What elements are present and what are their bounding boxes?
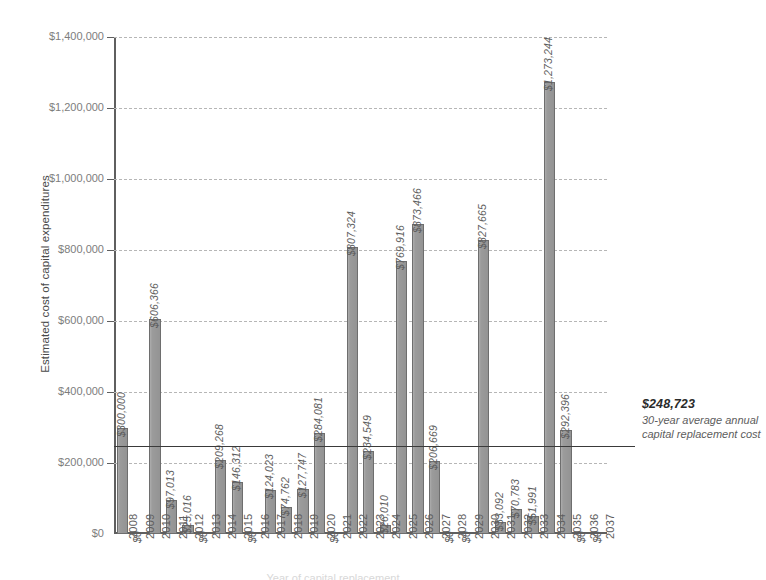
y-axis-tick-label: $1,000,000 (9, 172, 104, 184)
bar[interactable] (412, 224, 423, 534)
gridline (114, 250, 607, 251)
bar[interactable] (396, 261, 407, 534)
bar-value-label: $97,013 (164, 470, 176, 509)
y-axis-tick-mark (107, 179, 114, 180)
bar-value-label: $769,916 (394, 225, 406, 270)
gridline (114, 321, 607, 322)
bar[interactable] (347, 247, 358, 534)
y-axis-tick-label: $1,400,000 (9, 30, 104, 42)
x-axis-tick-label: 2016 (259, 514, 271, 539)
bar-value-label: $127,747 (296, 453, 308, 498)
x-axis-tick-label: 2015 (242, 514, 254, 539)
y-axis-tick-mark (107, 463, 114, 464)
x-axis-tick-label: 2028 (456, 514, 468, 539)
gridline (114, 108, 607, 109)
x-axis-tick-label: 2029 (473, 514, 485, 539)
y-axis-tick-mark (107, 392, 114, 393)
x-axis-tick-label: 2010 (160, 514, 172, 539)
x-axis-tick-label: 2017 (275, 514, 287, 539)
x-axis-tick-label: 2036 (588, 514, 600, 539)
y-axis-tick-label: $800,000 (9, 243, 104, 255)
y-axis-title: Estimated cost of capital expenditures (39, 24, 51, 524)
gridline (114, 463, 607, 464)
y-axis-tick-label: $200,000 (9, 456, 104, 468)
x-axis-tick-label: 2031 (505, 514, 517, 539)
x-axis-tick-label: 2032 (522, 514, 534, 539)
bar-value-label: $606,366 (148, 283, 160, 328)
bar-value-label: $234,549 (361, 415, 373, 460)
x-axis-tick-label: 2018 (292, 514, 304, 539)
x-axis-tick-label: 2025 (407, 514, 419, 539)
x-axis-tick-label: 2021 (341, 514, 353, 539)
x-axis-tick-label: 2020 (325, 514, 337, 539)
chart-plot-area: $0$200,000$400,000$600,000$800,000$1,000… (114, 37, 607, 534)
y-axis-tick-mark (107, 250, 114, 251)
bar[interactable] (478, 240, 489, 534)
gridline (114, 37, 607, 38)
x-axis-tick-label: 2027 (440, 514, 452, 539)
average-annotation: $248,723 30-year average annual capital … (642, 396, 766, 441)
average-description-label: 30-year average annual capital replaceme… (642, 413, 766, 441)
y-axis-tick-label: $400,000 (9, 385, 104, 397)
bar-value-label: $873,466 (411, 188, 423, 233)
x-axis-tick-label: 2037 (604, 514, 616, 539)
bar[interactable] (149, 319, 160, 534)
x-axis-tick-label: 2023 (374, 514, 386, 539)
x-axis-tick-label: 2012 (193, 514, 205, 539)
gridline (114, 392, 607, 393)
x-axis-tick-label: 2019 (308, 514, 320, 539)
bar[interactable] (544, 82, 555, 534)
x-axis-tick-label: 2030 (489, 514, 501, 539)
y-axis-tick-mark (107, 37, 114, 38)
x-axis-tick-label: 2024 (390, 514, 402, 539)
bar-value-label: $1,273,244 (542, 37, 554, 91)
bar-value-label: $827,665 (476, 204, 488, 249)
average-value-label: $248,723 (642, 396, 766, 412)
y-axis-tick-mark (107, 108, 114, 109)
y-axis-line (114, 37, 116, 534)
y-axis-tick-label: $600,000 (9, 314, 104, 326)
x-axis-tick-label: 2011 (177, 515, 189, 539)
bar-value-label: $284,081 (312, 397, 324, 442)
bar-value-label: $74,762 (279, 477, 291, 516)
x-axis-tick-label: 2022 (357, 514, 369, 539)
x-axis-tick-label: 2026 (423, 514, 435, 539)
x-axis-tick-label: 2034 (555, 514, 567, 539)
bar-value-label: $292,396 (559, 394, 571, 439)
x-axis-tick-label: 2033 (538, 514, 550, 539)
bar-value-label: $300,000 (115, 392, 127, 437)
average-reference-line (114, 446, 635, 447)
y-axis-tick-label: $1,200,000 (9, 101, 104, 113)
bar-value-label: $807,324 (345, 211, 357, 256)
bar-value-label: $206,669 (427, 425, 439, 470)
x-axis-tick-label: 2014 (226, 514, 238, 539)
x-axis-title-cutoff: Year of capital replacement (0, 572, 666, 580)
x-axis-tick-label: 2013 (210, 514, 222, 539)
y-axis-tick-label: $0 (9, 527, 104, 539)
x-axis-tick-label: 2035 (571, 514, 583, 539)
bar-value-label: $124,023 (263, 454, 275, 499)
gridline (114, 179, 607, 180)
y-axis-tick-mark (107, 321, 114, 322)
bar-value-label: $70,783 (509, 479, 521, 518)
x-axis-tick-label: 2009 (144, 514, 156, 539)
bar-value-label: $146,312 (230, 446, 242, 491)
x-axis-tick-label: 2008 (127, 514, 139, 539)
